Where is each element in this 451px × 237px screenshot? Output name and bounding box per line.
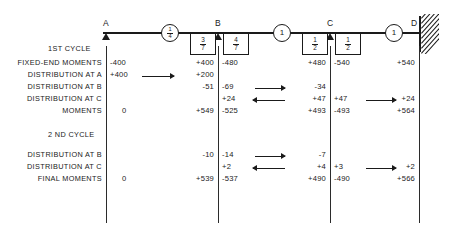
- cell-moments-c-left: +493: [276, 106, 326, 115]
- cell-dist-b-c-left: -34: [276, 82, 326, 91]
- fraction: 3 7: [200, 37, 206, 51]
- fixed-support-hatching: [421, 14, 439, 54]
- column-divider-a: [106, 46, 107, 223]
- cell-dist-c-b-right: +24: [222, 94, 235, 103]
- fraction: 1 2: [345, 37, 351, 51]
- column-divider-c: [330, 46, 331, 223]
- cell-fem-b-right: -480: [222, 58, 238, 67]
- cell-fem-c-left: +480: [276, 58, 326, 67]
- cell-fem-b-left: +400: [164, 58, 214, 67]
- column-divider-b: [218, 46, 219, 223]
- cell-final-b-left: +539: [164, 174, 214, 183]
- cell-dist-c2-c-left: +4: [276, 162, 326, 171]
- cell-final-d-left: +566: [365, 174, 415, 183]
- cell-moments-c-right: -493: [334, 106, 350, 115]
- cell-dist-b2-b-right: -14: [222, 150, 234, 159]
- distribution-factor-box-cd: 1 2: [335, 33, 361, 55]
- cell-dist-c2-d-left: +2: [365, 162, 415, 171]
- distribution-factor-box-cb: 1 2: [302, 33, 328, 55]
- support-triangle-a: [102, 33, 110, 40]
- moment-distribution-diagram: A B C D 1 4 1 1 3 7 4 7 1 2 1 2: [0, 0, 451, 237]
- row-label-distribution-at-c-cycle2: DISTRIBUTION AT C: [0, 162, 102, 171]
- fraction: 4 7: [233, 37, 239, 51]
- node-label-b: B: [215, 18, 221, 28]
- carry-over-factor-a-b: 1 4: [161, 24, 179, 42]
- carry-over-factor-c-d: 1: [385, 24, 403, 42]
- cell-dist-b2-b-left: -10: [164, 150, 214, 159]
- cell-dist-c-c-left: +47: [276, 94, 326, 103]
- row-label-final-moments: FINAL MOMENTS: [0, 174, 102, 183]
- row-label-moments: MOMENTS: [0, 106, 102, 115]
- cell-dist-c-d-left: +24: [365, 94, 415, 103]
- carry-over-factor-b-c: 1: [273, 24, 291, 42]
- beam-axis: [103, 32, 421, 34]
- fraction: 1 4: [167, 27, 172, 39]
- cell-moments-d-left: +564: [365, 106, 415, 115]
- cell-dist-a-a-right: +400: [110, 70, 128, 79]
- cycle-1-title: 1ST CYCLE: [48, 44, 91, 53]
- node-label-c: C: [327, 18, 334, 28]
- cycle-2-title: 2 ND CYCLE: [48, 130, 94, 139]
- row-label-fixed-end-moments: FIXED-END MOMENTS: [0, 58, 102, 67]
- cell-fem-d-left: +540: [365, 58, 415, 67]
- cell-dist-a-b-left: +200: [164, 70, 214, 79]
- cell-dist-b-b-left: -51: [164, 82, 214, 91]
- cell-fem-a-right: -400: [110, 58, 126, 67]
- cell-final-c-left: +490: [276, 174, 326, 183]
- cell-dist-c2-b-right: +2: [222, 162, 231, 171]
- cell-final-b-right: -537: [222, 174, 238, 183]
- cell-dist-b2-c-left: -7: [276, 150, 326, 159]
- cell-dist-c2-c-right: +3: [334, 162, 343, 171]
- row-label-distribution-at-b-cycle2: DISTRIBUTION AT B: [0, 150, 102, 159]
- cell-moments-b-left: +549: [164, 106, 214, 115]
- row-label-distribution-at-c: DISTRIBUTION AT C: [0, 94, 102, 103]
- column-divider-d: [419, 46, 420, 223]
- node-label-a: A: [103, 18, 109, 28]
- cell-final-c-right: -490: [334, 174, 350, 183]
- distribution-factor-box-bc: 4 7: [223, 33, 249, 55]
- cell-moments-a-right: 0: [122, 106, 126, 115]
- cell-fem-c-right: -540: [334, 58, 350, 67]
- distribution-factor-box-ba: 3 7: [190, 33, 216, 55]
- row-label-distribution-at-a: DISTRIBUTION AT A: [0, 70, 102, 79]
- cell-final-a-right: 0: [122, 174, 126, 183]
- cell-dist-b-b-right: -69: [222, 82, 234, 91]
- fraction: 1 2: [312, 37, 318, 51]
- cell-moments-b-right: -525: [222, 106, 238, 115]
- node-label-d: D: [411, 18, 418, 28]
- row-label-distribution-at-b: DISTRIBUTION AT B: [0, 82, 102, 91]
- cell-dist-c-c-right: +47: [334, 94, 347, 103]
